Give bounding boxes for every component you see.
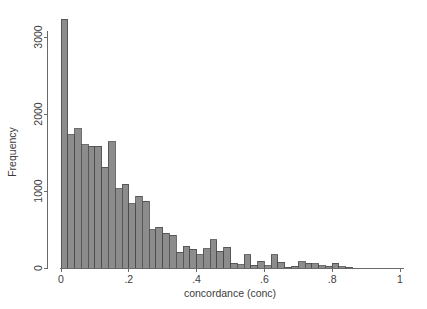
histogram-bar <box>88 146 95 268</box>
histogram-bar <box>217 251 224 268</box>
histogram-bar <box>237 265 244 268</box>
y-axis-tick-label: 1000 <box>32 179 44 203</box>
histogram-bar <box>244 255 251 268</box>
histogram-bar <box>197 255 204 268</box>
histogram-bar <box>102 167 109 268</box>
histogram-plot: 0.2.4.6.810100020003000 concordance (con… <box>0 0 427 309</box>
histogram-bar <box>68 135 75 268</box>
y-axis-tick-label: 3000 <box>32 25 44 49</box>
histogram-bar <box>258 261 265 268</box>
histogram-bar <box>183 246 190 268</box>
histogram-bar <box>142 201 149 268</box>
x-axis-tick-label: .8 <box>328 273 337 285</box>
x-axis-tick-label: .2 <box>124 273 133 285</box>
histogram-bar <box>163 233 170 268</box>
histogram-bar <box>176 252 183 268</box>
histogram-bar <box>210 240 217 268</box>
histogram-bar <box>305 263 312 268</box>
x-axis-title: concordance (conc) <box>184 287 276 299</box>
histogram-bar <box>278 262 285 268</box>
x-axis-tick-label: .4 <box>192 273 201 285</box>
bars-group <box>61 19 353 268</box>
histogram-bar <box>169 235 176 268</box>
histogram-bar <box>95 146 102 268</box>
histogram-bar <box>312 264 319 268</box>
histogram-bar <box>149 230 156 269</box>
histogram-bar <box>224 247 231 268</box>
histogram-figure: 0.2.4.6.810100020003000 concordance (con… <box>0 0 427 309</box>
histogram-bar <box>156 227 163 268</box>
histogram-bar <box>61 19 68 268</box>
histogram-bar <box>231 263 238 268</box>
histogram-bar <box>203 249 210 268</box>
histogram-bar <box>108 142 115 268</box>
y-axis-title: Frequency <box>6 126 18 176</box>
histogram-bar <box>332 263 339 268</box>
histogram-bar <box>298 262 305 268</box>
y-axis-tick-label: 2000 <box>32 102 44 126</box>
histogram-bar <box>115 189 122 268</box>
y-axis-tick-label: 0 <box>32 265 44 271</box>
histogram-bar <box>81 145 88 268</box>
x-axis-tick-label: 0 <box>58 273 64 285</box>
histogram-bar <box>190 249 197 268</box>
histogram-bar <box>75 129 82 268</box>
histogram-bar <box>122 184 129 268</box>
x-axis-tick-label: 1 <box>397 273 403 285</box>
histogram-bar <box>271 255 278 268</box>
histogram-bar <box>136 196 143 268</box>
histogram-bar <box>129 204 136 268</box>
x-axis-tick-label: .6 <box>260 273 269 285</box>
